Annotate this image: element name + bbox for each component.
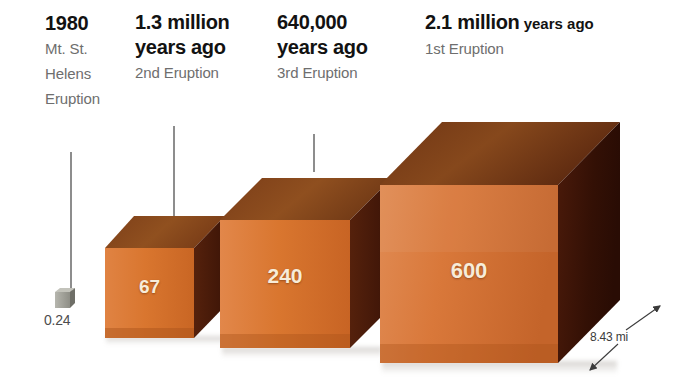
column-1-subline-2: Helens [45,61,100,86]
dimension-annotation-8-43-mi: 8.43 mi [588,300,674,378]
column-1-headline-main: 1980 [45,12,88,34]
column-4-headline-suffix: years ago [524,15,594,32]
column-1-subline-3: Eruption [45,86,100,111]
column-2-subline-1: 2nd Eruption [135,60,230,85]
label-column-640000: 640,000 years ago 3rd Eruption [277,10,368,85]
column-2-headline-main: 1.3 million [135,10,230,35]
dimension-arrow-upper [626,306,660,330]
cube-600-value-label: 600 [380,258,558,284]
cube-600: 600 [380,122,620,363]
infographic-canvas: 1980 Mt. St. Helens Eruption 1.3 million… [0,0,680,380]
cube-0-24-value-label: 0.24 [44,312,70,328]
cube-67-value-label: 67 [105,276,194,298]
leader-line-640000 [313,134,315,172]
column-2-headline-suffix: years ago [135,35,230,60]
cube-0-24-top-face [55,288,75,308]
label-column-2-1-million: 2.1 million years ago 1st Eruption [425,10,594,61]
dimension-label-text: 8.43 mi [590,330,628,344]
column-4-subline-1: 1st Eruption [425,36,594,61]
leader-line-1980 [70,152,72,292]
column-3-headline-main: 640,000 [277,10,368,35]
label-column-1-3-million: 1.3 million years ago 2nd Eruption [135,10,230,85]
cube-240-value-label: 240 [220,264,350,288]
column-4-headline: 2.1 million years ago [425,10,594,36]
column-3-subline-1: 3rd Eruption [277,60,368,85]
cube-0-24 [55,288,75,308]
dimension-arrow-lower [590,344,618,370]
cube-67: 67 [105,216,225,338]
column-4-headline-main: 2.1 million [425,11,520,33]
label-column-1980: 1980 Mt. St. Helens Eruption [45,10,100,111]
cube-240: 240 [220,178,392,350]
column-3-headline-suffix: years ago [277,35,368,60]
column-1-subline-1: Mt. St. [45,36,100,61]
column-1-headline: 1980 [45,10,100,36]
leader-line-1-3-million [173,126,175,218]
